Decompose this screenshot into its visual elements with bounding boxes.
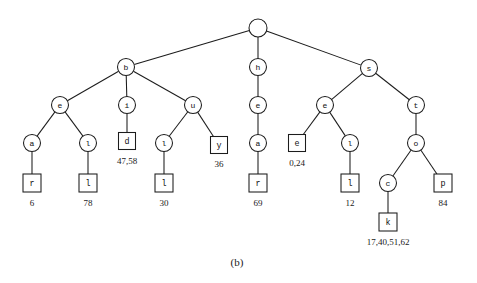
tree-node-u: u <box>185 97 202 114</box>
node-label-t: t <box>414 101 419 110</box>
tree-node-a2: a <box>250 135 267 152</box>
tree-edge <box>37 112 55 136</box>
leaf-node-l5: l <box>155 174 173 192</box>
node-label-y: y <box>216 141 221 151</box>
tree-node-l1: l <box>80 135 97 152</box>
node-label-e2: e <box>256 101 261 110</box>
tree-node-e1: e <box>52 97 69 114</box>
leaf-node-e4: e <box>289 135 306 152</box>
tree-edge <box>198 112 214 136</box>
value-label-l6: 12 <box>346 198 355 208</box>
node-label-k: k <box>385 218 390 228</box>
value-label-l4: 78 <box>84 198 94 208</box>
leaf-node-y: y <box>211 137 228 154</box>
tree-edge <box>65 112 83 136</box>
tree-edge <box>134 31 249 65</box>
node-label-d: d <box>124 137 129 147</box>
tree-edge <box>303 112 320 135</box>
leaf-node-d: d <box>119 133 136 150</box>
node-label-p: p <box>440 179 445 189</box>
tree-node-t: t <box>408 97 425 114</box>
value-label-r2: 69 <box>254 198 264 208</box>
tree-edge <box>133 71 185 101</box>
tree-node-c: c <box>380 175 397 192</box>
value-label-k: 17,40,51,62 <box>367 237 410 247</box>
value-label-e4: 0,24 <box>289 158 305 168</box>
trie-tree-svg: bhseiueetaldlyaelorllrlcpk 67847,5830366… <box>0 0 477 283</box>
leaf-node-l6: l <box>341 174 359 192</box>
node-label-b: b <box>124 63 129 72</box>
tree-edge <box>332 73 363 99</box>
node-label-e1: e <box>58 101 63 110</box>
tree-node-o: o <box>408 135 425 152</box>
tree-edge <box>330 112 346 136</box>
tree-edge <box>126 76 127 97</box>
leaf-node-r2: r <box>249 174 267 192</box>
value-label-l5: 30 <box>160 198 170 208</box>
tree-node-l2: l <box>156 135 173 152</box>
leaf-node-l4: l <box>79 174 97 192</box>
node-label-i: i <box>125 101 130 110</box>
tree-edge <box>169 112 188 136</box>
leaf-node-r1: r <box>23 174 41 192</box>
node-label-o: o <box>414 139 419 148</box>
tree-node-root <box>249 19 267 37</box>
tree-edge <box>266 31 361 65</box>
node-label-u: u <box>191 101 196 110</box>
value-label-r1: 6 <box>30 198 35 208</box>
node-label-e4: e <box>294 139 299 149</box>
tree-node-h: h <box>250 59 267 76</box>
node-label-s: s <box>367 64 372 73</box>
node-label-l4: l <box>85 179 90 189</box>
tree-edge <box>376 73 410 99</box>
node-label-e3: e <box>323 101 328 110</box>
value-labels-group: 67847,583036690,24128417,40,51,62 <box>30 156 448 247</box>
tree-node-b: b <box>118 59 135 76</box>
value-label-p: 84 <box>439 198 449 208</box>
tree-edge <box>67 71 118 101</box>
tree-edge <box>421 150 437 174</box>
tree-node-l3: l <box>342 135 359 152</box>
tree-node-s: s <box>361 60 378 77</box>
tree-node-a1: a <box>24 135 41 152</box>
tree-node-e3: e <box>317 97 334 114</box>
leaf-node-p: p <box>434 174 452 192</box>
node-label-c: c <box>386 179 391 188</box>
figure-caption: (b) <box>231 256 244 269</box>
node-circle-shape <box>249 19 267 37</box>
node-label-l6: l <box>347 179 352 189</box>
tree-edge <box>393 150 411 176</box>
node-label-r1: r <box>29 179 34 189</box>
node-label-l3: l <box>348 139 353 148</box>
node-label-l5: l <box>161 179 166 189</box>
tree-node-e2: e <box>250 97 267 114</box>
node-label-l2: l <box>162 139 167 148</box>
tree-node-i: i <box>119 97 136 114</box>
node-label-h: h <box>256 63 261 72</box>
trie-diagram-figure: bhseiueetaldlyaelorllrlcpk 67847,5830366… <box>0 0 477 283</box>
value-label-d: 47,58 <box>117 156 138 166</box>
node-label-r2: r <box>255 179 260 189</box>
leaf-node-k: k <box>379 213 397 231</box>
node-label-a2: a <box>256 139 261 148</box>
node-label-l1: l <box>86 139 91 148</box>
node-label-a1: a <box>30 139 35 148</box>
value-label-y: 36 <box>215 159 225 169</box>
